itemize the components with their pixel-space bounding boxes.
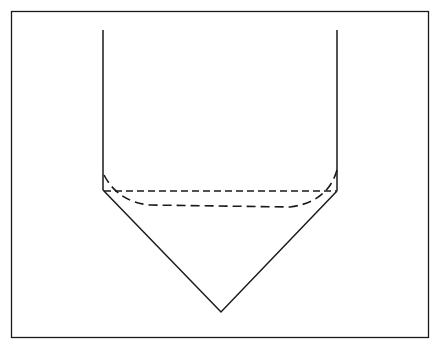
vessel-diagram [0,0,440,347]
dashed-meniscus-curve [104,170,337,207]
diagram-frame [12,12,429,338]
conical-bottom [103,190,337,312]
vessel-outline [103,30,337,312]
